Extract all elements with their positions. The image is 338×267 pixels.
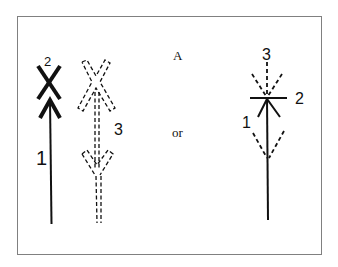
label-2-right: 2 bbox=[295, 90, 304, 107]
label-3-right: 3 bbox=[262, 46, 271, 63]
left-dashed-arrow bbox=[78, 60, 115, 223]
label-2-left: 2 bbox=[44, 54, 51, 69]
diagram-canvas: 1 2 3 A or 3 2 1 bbox=[0, 0, 338, 267]
label-1-left: 1 bbox=[36, 147, 47, 169]
left-solid-arrow bbox=[38, 66, 60, 224]
right-arrow-figure bbox=[250, 62, 287, 220]
label-or: or bbox=[172, 125, 184, 140]
diagram-frame bbox=[18, 17, 322, 255]
label-1-right: 1 bbox=[242, 114, 251, 131]
label-a: A bbox=[173, 48, 183, 63]
label-3-left: 3 bbox=[114, 121, 123, 138]
